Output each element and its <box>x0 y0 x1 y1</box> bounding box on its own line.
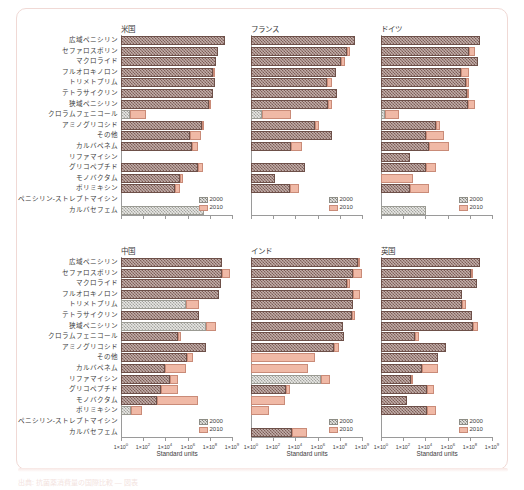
bar-segment-2000 <box>121 311 199 320</box>
x-axis-tick <box>273 216 274 219</box>
bar-segment-2010 <box>471 269 473 278</box>
bar-segment-2000 <box>381 279 477 288</box>
bar-segment-2000 <box>121 290 219 299</box>
y-axis-label: 狭域ペニシリン <box>69 99 118 108</box>
legend-label: 2010 <box>210 204 223 211</box>
bar-segment-2010 <box>334 343 339 352</box>
y-axis-label: グリコペプチド <box>69 162 118 171</box>
legend-item: 2010 <box>329 204 353 211</box>
x-axis-tick-label: 1×100 <box>374 442 388 450</box>
bar-segment-2000 <box>381 110 385 119</box>
legend-label: 2000 <box>340 196 353 203</box>
bar-row <box>121 300 233 309</box>
bar-row <box>251 406 363 415</box>
bar-row <box>251 279 363 288</box>
x-axis-tick-label: 1×108 <box>203 442 217 450</box>
bar-segment-2010 <box>209 100 211 109</box>
bar-row <box>381 322 493 331</box>
bar-row <box>121 184 233 193</box>
legend-label: 2000 <box>210 196 223 203</box>
bar-segment-2000 <box>121 163 198 172</box>
y-axis-label: アミノグリコシド <box>62 342 118 351</box>
bar-row <box>121 57 233 66</box>
bar-row <box>121 110 233 119</box>
x-axis-title: Standard units <box>381 450 493 457</box>
bar-segment-2000 <box>121 68 213 77</box>
bar-segment-2000 <box>121 47 218 56</box>
x-axis-tick <box>425 216 426 219</box>
bar-segment-2000 <box>251 47 347 56</box>
bar-segment-2000 <box>381 131 426 140</box>
x-axis-tick <box>381 216 382 219</box>
x-axis-tick <box>143 438 144 441</box>
bar-segment-2000 <box>251 174 275 183</box>
x-axis-tick-label: 1×106 <box>441 442 455 450</box>
bar-row <box>121 269 233 278</box>
bar-segment-2010 <box>251 396 285 405</box>
bar-segment-2000 <box>251 269 353 278</box>
bar-row <box>121 153 233 162</box>
bar-row <box>251 68 363 77</box>
x-axis-tick-label: 1×109 <box>355 442 369 450</box>
bar-segment-2010 <box>466 78 469 87</box>
bar-row <box>381 163 493 172</box>
bar-segment-2000 <box>251 89 337 98</box>
bar-segment-2000 <box>251 322 343 331</box>
legend: 20002010 <box>459 196 483 212</box>
legend-swatch-2010 <box>199 427 208 433</box>
bar-segment-2010 <box>381 174 413 183</box>
x-axis-tick <box>210 438 211 441</box>
plot-area <box>121 257 233 437</box>
x-axis-tick-label: 1×102 <box>266 442 280 450</box>
bar-segment-2000 <box>381 163 426 172</box>
bar-row <box>121 47 233 56</box>
bar-row <box>251 311 363 320</box>
bar-segment-2010 <box>186 300 199 309</box>
bar-segment-2010 <box>427 385 434 394</box>
bar-segment-2000 <box>381 322 473 331</box>
bar-row <box>121 322 233 331</box>
bar-row <box>121 68 233 77</box>
bar-segment-2000 <box>381 406 427 415</box>
bar-segment-2010 <box>427 406 437 415</box>
x-axis-title: Standard units <box>121 450 233 457</box>
bar-segment-2010 <box>170 375 178 384</box>
bar-row <box>381 153 493 162</box>
bar-row <box>251 353 363 362</box>
legend-item: 2010 <box>459 204 483 211</box>
bar-row <box>251 163 363 172</box>
y-axis-label: その他 <box>97 130 118 139</box>
bar-segment-2010 <box>291 142 302 151</box>
y-axis-label: フルオロキノロン <box>62 67 118 76</box>
bar-row <box>121 36 233 45</box>
bar-segment-2000 <box>381 68 461 77</box>
x-axis-tick-label: 1×106 <box>181 442 195 450</box>
x-axis-tick <box>340 438 341 441</box>
bar-row <box>121 364 233 373</box>
panel-title: インド <box>251 245 272 256</box>
bar-row <box>381 100 493 109</box>
bar-segment-2000 <box>381 269 471 278</box>
bar-segment-2000 <box>251 332 344 341</box>
y-axis-label: フルオロキノロン <box>62 289 118 298</box>
bar-row <box>251 364 363 373</box>
x-axis-tick-label: 1×104 <box>288 442 302 450</box>
bar-row <box>121 343 233 352</box>
x-axis-tick <box>318 438 319 441</box>
x-axis: 1×1001×1021×1041×1061×1081×109 <box>121 437 233 439</box>
bar-row <box>251 36 363 45</box>
bar-segment-2000 <box>251 100 328 109</box>
bar-row <box>121 174 233 183</box>
legend-label: 2000 <box>470 418 483 425</box>
bar-segment-2000 <box>121 375 170 384</box>
bar-segment-2010 <box>202 121 204 130</box>
bar-row <box>251 131 363 140</box>
bar-segment-2000 <box>121 322 206 331</box>
x-axis-tick <box>165 216 166 219</box>
x-axis-tick <box>492 438 493 441</box>
bar-segment-2010 <box>130 110 146 119</box>
bar-segment-2000 <box>121 57 216 66</box>
bar-row <box>251 184 363 193</box>
legend-label: 2010 <box>470 426 483 433</box>
bar-segment-2000 <box>381 142 429 151</box>
